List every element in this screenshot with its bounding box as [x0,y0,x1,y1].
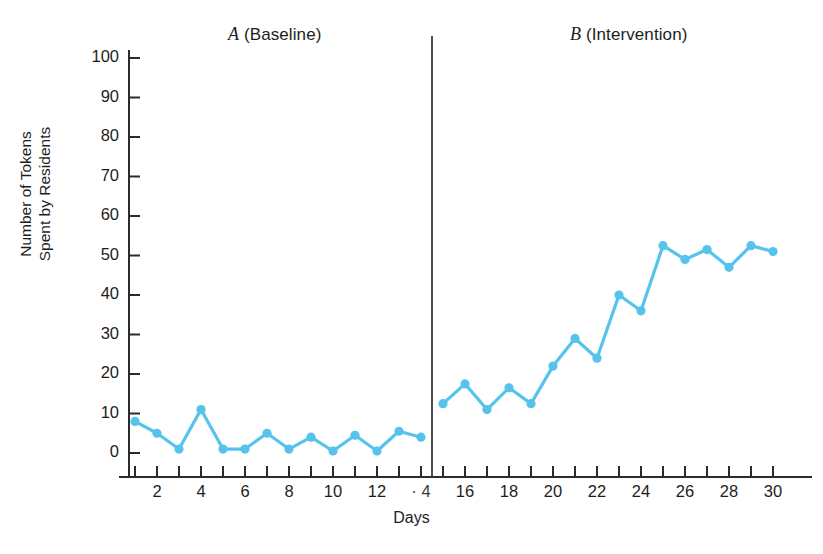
data-point-day-11 [350,431,359,440]
data-point-day-4 [196,405,205,414]
figure-chart-area: A (Baseline) B (Intervention) Number of … [0,0,823,554]
data-point-day-26 [680,255,689,264]
data-point-day-19 [526,399,535,408]
x-tick-label-12: 12 [357,482,397,501]
y-tick-label-10: 10 [73,403,119,422]
data-point-day-22 [592,354,601,363]
y-tick-label-0: 0 [73,442,119,461]
phase-name-b: (Intervention) [586,25,688,44]
x-tick-label-10: 10 [313,482,353,501]
y-tick-label-30: 30 [73,324,119,343]
data-point-day-16 [460,379,469,388]
x-tick-label-8: 8 [269,482,309,501]
data-point-day-2 [152,429,161,438]
x-tick-label-6: 6 [225,482,265,501]
data-point-day-29 [746,241,755,250]
data-point-day-8 [284,444,293,453]
x-tick-label-16: 16 [445,482,485,501]
data-point-day-30 [768,247,777,256]
data-point-day-23 [614,290,623,299]
data-point-day-27 [702,245,711,254]
y-tick-label-40: 40 [73,284,119,303]
data-point-day-7 [262,429,271,438]
y-tick-label-60: 60 [73,205,119,224]
data-point-day-15 [438,399,447,408]
data-point-day-24 [636,306,645,315]
y-axis-title-line2: Spent by Residents [35,89,54,299]
y-tick-label-70: 70 [73,166,119,185]
data-point-day-18 [504,383,513,392]
phase-label-baseline: A (Baseline) [228,24,321,45]
x-tick-label-4: 4 [181,482,221,501]
axes-group [119,50,812,477]
data-point-day-17 [482,405,491,414]
plot-svg [0,0,823,554]
data-point-day-20 [548,362,557,371]
x-tick-label-30: 30 [753,482,793,501]
data-point-day-12 [372,446,381,455]
y-tick-label-90: 90 [73,87,119,106]
x-tick-label-2: 2 [137,482,177,501]
y-tick-label-100: 100 [73,47,119,66]
x-tick-label-18: 18 [489,482,529,501]
data-point-day-9 [306,433,315,442]
y-tick-label-20: 20 [73,363,119,382]
y-axis-title-line1: Number of Tokens [16,89,35,299]
x-axis-title: Days [0,509,823,527]
phase-letter-a: A [228,24,239,44]
data-point-day-10 [328,446,337,455]
data-point-day-28 [724,263,733,272]
data-point-day-25 [658,241,667,250]
data-point-day-21 [570,334,579,343]
data-point-day-1 [130,417,139,426]
phase-name-a: (Baseline) [244,25,322,44]
data-line-phase-B [443,246,773,410]
data-point-day-13 [394,427,403,436]
data-series-group [130,241,777,456]
data-point-day-6 [240,444,249,453]
data-point-day-3 [174,444,183,453]
data-point-day-14 [416,433,425,442]
y-tick-label-80: 80 [73,126,119,145]
x-tick-label-20: 20 [533,482,573,501]
y-tick-label-50: 50 [73,245,119,264]
x-tick-label-22: 22 [577,482,617,501]
phase-letter-b: B [570,24,581,44]
x-tick-label-26: 26 [665,482,705,501]
x-tick-label-14: · 4 [401,482,441,501]
x-tick-label-24: 24 [621,482,661,501]
y-axis-title: Number of Tokens Spent by Residents [16,89,54,299]
data-point-day-5 [218,444,227,453]
x-tick-label-28: 28 [709,482,749,501]
phase-label-intervention: B (Intervention) [570,24,688,45]
